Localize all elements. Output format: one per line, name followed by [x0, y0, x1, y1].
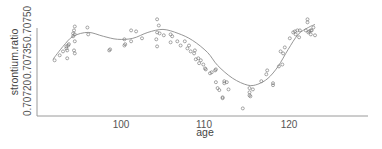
y-axis-title: strontium.ratio — [8, 29, 20, 96]
data-point — [179, 44, 182, 47]
data-point — [193, 52, 196, 55]
data-point — [156, 45, 159, 48]
data-point — [272, 84, 275, 87]
data-point — [87, 33, 90, 36]
data-point — [130, 29, 133, 32]
data-point — [73, 49, 76, 52]
y-tick-label: 0.70750 — [22, 5, 33, 42]
data-point — [265, 73, 268, 76]
data-point — [58, 54, 61, 57]
data-point — [135, 30, 138, 33]
data-point — [73, 52, 76, 55]
data-point — [189, 50, 192, 53]
strontium-scatter-chart: 100110120 0.707200.707350.70750 age stro… — [0, 0, 382, 149]
data-point — [266, 69, 269, 72]
data-point — [306, 18, 309, 21]
data-point — [251, 88, 254, 91]
data-point — [169, 41, 172, 44]
x-tick-label: 120 — [281, 119, 298, 130]
data-point — [281, 63, 284, 66]
data-point — [73, 25, 76, 28]
data-point — [176, 40, 179, 43]
y-tick-label: 0.70735 — [22, 42, 33, 79]
data-point — [314, 34, 317, 37]
data-point — [86, 26, 89, 29]
data-point — [171, 35, 174, 38]
x-tick-label: 100 — [113, 119, 130, 130]
smooth-fit-line — [53, 25, 315, 86]
data-point — [312, 26, 315, 29]
data-point — [130, 40, 133, 43]
data-point — [227, 88, 230, 91]
plot-area — [37, 18, 368, 116]
data-point — [288, 37, 291, 40]
data-point — [248, 87, 251, 90]
data-point — [66, 57, 69, 60]
data-point — [282, 52, 285, 55]
data-point — [141, 37, 144, 40]
data-point — [214, 81, 217, 84]
data-point — [73, 29, 76, 32]
data-point — [188, 44, 191, 47]
data-point — [169, 33, 172, 36]
data-point — [218, 89, 221, 92]
data-point — [156, 18, 159, 21]
data-point — [283, 46, 286, 49]
data-point — [216, 87, 219, 90]
y-tick-label: 0.70720 — [22, 79, 33, 116]
data-point — [198, 62, 201, 65]
data-point — [186, 47, 189, 50]
data-point — [241, 107, 244, 110]
data-point — [306, 21, 309, 24]
data-point — [202, 63, 205, 66]
data-point — [162, 34, 165, 37]
data-point — [183, 40, 186, 43]
data-point — [73, 40, 76, 43]
data-point — [155, 38, 158, 41]
data-point — [248, 91, 251, 94]
data-point — [193, 49, 196, 52]
data-points — [53, 18, 316, 110]
y-axis-ticks: 0.707200.707350.70750 — [22, 5, 33, 116]
data-point — [62, 50, 65, 53]
data-point — [157, 24, 160, 27]
x-axis-title: age — [196, 126, 214, 138]
data-point — [298, 36, 301, 39]
data-point — [309, 33, 312, 36]
data-point — [199, 59, 202, 62]
